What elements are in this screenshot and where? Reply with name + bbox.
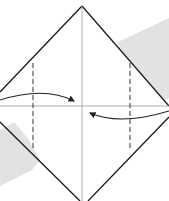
- origami-diagram: [0, 0, 169, 201]
